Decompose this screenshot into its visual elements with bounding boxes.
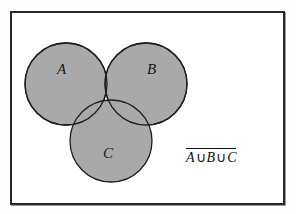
union-operator-1: ∪ (195, 150, 207, 165)
formula-term-a: A (186, 150, 195, 165)
diagram-frame (10, 11, 285, 205)
formula-term-c: C (227, 150, 236, 165)
venn-diagram-figure: A B C A∪B∪C (0, 0, 296, 214)
complement-overbar: A∪B∪C (186, 148, 236, 166)
union-operator-2: ∪ (215, 150, 227, 165)
set-label-b: B (147, 62, 156, 77)
set-label-a: A (57, 62, 66, 77)
set-label-c: C (103, 146, 113, 161)
set-expression: A∪B∪C (186, 148, 236, 166)
formula-term-b: B (207, 150, 216, 165)
